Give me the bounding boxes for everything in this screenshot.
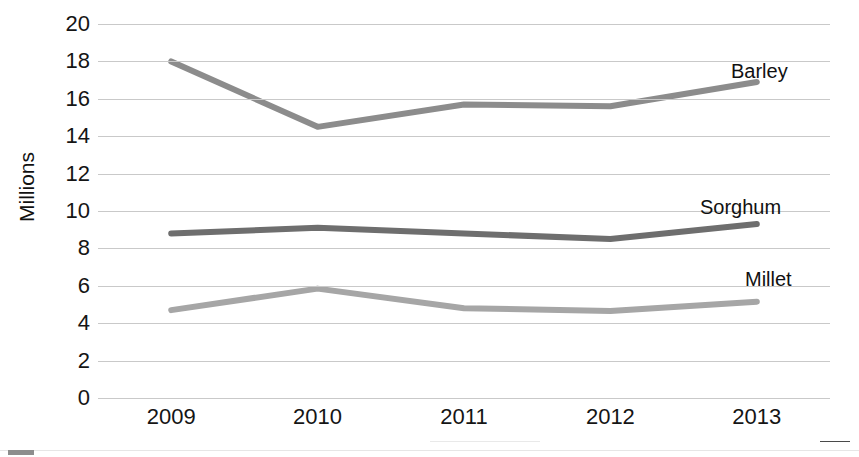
- x-tick-label: 2013: [697, 404, 817, 430]
- x-axis-tick-labels: 20092010201120122013: [98, 404, 830, 438]
- gridline: [98, 398, 830, 399]
- y-tick-label: 16: [44, 88, 90, 110]
- gridline: [98, 361, 830, 362]
- gridline: [98, 61, 830, 62]
- gridline: [98, 24, 830, 25]
- x-tick-label: 2010: [258, 404, 378, 430]
- x-tick-label: 2012: [550, 404, 670, 430]
- legend-ghost-marker: [820, 441, 850, 442]
- legend-divider: [0, 450, 859, 451]
- y-tick-label: 0: [44, 387, 90, 409]
- y-tick-label: 6: [44, 275, 90, 297]
- gridline: [98, 323, 830, 324]
- x-tick-label: 2011: [404, 404, 524, 430]
- y-tick-label: 2: [44, 350, 90, 372]
- series-line-sorghum: [171, 224, 757, 239]
- legend-ghost-text: [430, 441, 540, 442]
- series-line-millet: [171, 289, 757, 311]
- gridline: [98, 136, 830, 137]
- y-tick-label: 20: [44, 13, 90, 35]
- y-axis-tick-labels: 20181614121086420: [44, 0, 90, 457]
- line-chart: Millions 20181614121086420 2009201020112…: [0, 0, 859, 457]
- y-axis-title: Millions: [15, 127, 39, 247]
- legend-strip-cropped: [0, 441, 859, 457]
- y-tick-label: 18: [44, 50, 90, 72]
- series-label-barley: Barley: [731, 60, 788, 82]
- y-tick-label: 14: [44, 125, 90, 147]
- gridline: [98, 286, 830, 287]
- series-label-millet: Millet: [745, 268, 792, 290]
- x-tick-label: 2009: [111, 404, 231, 430]
- series-label-sorghum: Sorghum: [700, 196, 781, 218]
- series-line-barley: [171, 61, 757, 126]
- y-tick-label: 4: [44, 312, 90, 334]
- gridline: [98, 174, 830, 175]
- gridline: [98, 248, 830, 249]
- gridline: [98, 99, 830, 100]
- y-tick-label: 12: [44, 163, 90, 185]
- y-tick-label: 10: [44, 200, 90, 222]
- legend-swatch: [8, 450, 34, 455]
- y-tick-label: 8: [44, 237, 90, 259]
